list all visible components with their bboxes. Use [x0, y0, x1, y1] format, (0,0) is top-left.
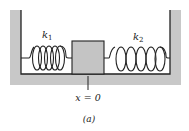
- spring-right-label: k2: [133, 31, 144, 44]
- spring-left: [21, 46, 72, 70]
- spring-block-diagram: k1 k2 x = 0 (a): [0, 0, 189, 131]
- figure-caption: (a): [83, 114, 96, 124]
- equilibrium-label: x = 0: [75, 92, 100, 103]
- spring-right: [104, 47, 170, 71]
- spring-left-label: k1: [42, 29, 53, 42]
- mass-block: [72, 41, 104, 74]
